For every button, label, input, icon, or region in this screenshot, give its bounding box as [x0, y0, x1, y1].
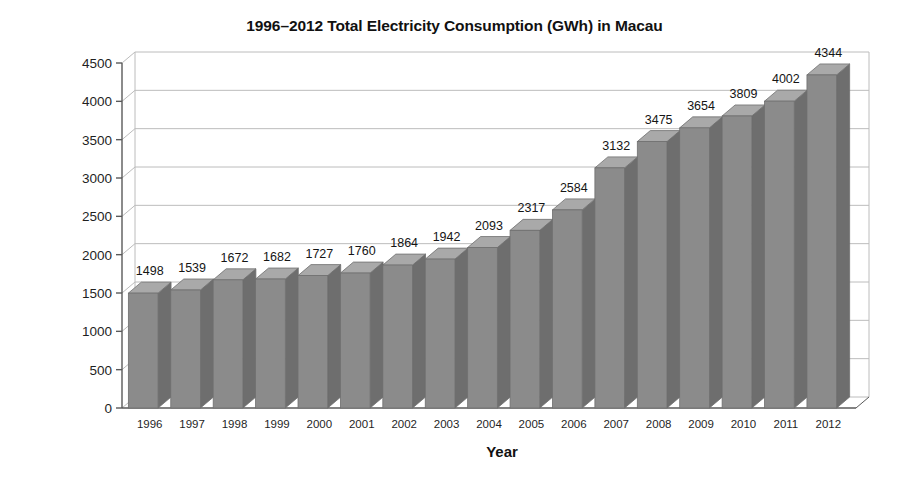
- bar-value-label: 2093: [475, 219, 503, 233]
- bar-value-label: 1682: [263, 250, 291, 264]
- bar-value-label: 3475: [645, 113, 673, 127]
- x-axis-tick-label: 2000: [307, 418, 333, 430]
- y-axis-tick-label: 500: [60, 362, 112, 377]
- x-axis-tick-label: 1999: [264, 418, 290, 430]
- x-axis-tick-label: 2005: [519, 418, 545, 430]
- y-axis-tick-label: 4500: [60, 56, 112, 71]
- x-axis-tick-label: 2003: [434, 418, 460, 430]
- x-axis-tick-label: 2004: [476, 418, 502, 430]
- bar-value-label: 1539: [178, 261, 206, 275]
- bar-value-label: 3132: [602, 139, 630, 153]
- bars: [128, 64, 849, 408]
- x-axis-tick-label: 2008: [646, 418, 672, 430]
- x-axis-tick-label: 2001: [349, 418, 375, 430]
- x-axis-tick-label: 2002: [391, 418, 417, 430]
- bar-value-label: 1498: [136, 264, 164, 278]
- x-axis-tick-label: 2012: [815, 418, 841, 430]
- y-axis-tick-label: 4000: [60, 94, 112, 109]
- bar-value-label: 2317: [518, 201, 546, 215]
- bar-value-label: 1760: [348, 244, 376, 258]
- x-axis-tick-label: 1997: [179, 418, 205, 430]
- y-axis-tick-label: 3500: [60, 132, 112, 147]
- bar-value-label: 2584: [560, 181, 588, 195]
- y-axis-tick-label: 1500: [60, 286, 112, 301]
- y-axis-tick-label: 2000: [60, 247, 112, 262]
- x-axis-tick-label: 2006: [561, 418, 587, 430]
- x-axis-tick-label: 1998: [222, 418, 248, 430]
- bar-value-label: 1672: [221, 251, 249, 265]
- x-axis-tick-label: 2011: [774, 418, 799, 430]
- bar-value-label: 1864: [390, 236, 418, 250]
- bar-value-label: 3654: [687, 99, 715, 113]
- bar-value-label: 1942: [433, 230, 461, 244]
- y-axis-tick-labels: 050010001500200025003000350040004500: [60, 0, 112, 494]
- bar-value-label: 4002: [772, 72, 800, 86]
- bar-chart: 1996–2012 Total Electricity Consumption …: [0, 0, 909, 494]
- y-axis-tick-label: 3000: [60, 171, 112, 186]
- y-axis-tick-label: 1000: [60, 324, 112, 339]
- x-axis-tick-label: 2010: [731, 418, 757, 430]
- y-axis-tick-label: 0: [60, 401, 112, 416]
- bar-value-label: 3809: [730, 87, 758, 101]
- x-axis-tick-label: 2009: [688, 418, 714, 430]
- bar-value-label: 4344: [814, 46, 842, 60]
- y-axis-tick-label: 2500: [60, 209, 112, 224]
- bar-value-label: 1727: [305, 247, 333, 261]
- x-axis-tick-label: 1996: [137, 418, 163, 430]
- x-axis-tick-label: 2007: [603, 418, 629, 430]
